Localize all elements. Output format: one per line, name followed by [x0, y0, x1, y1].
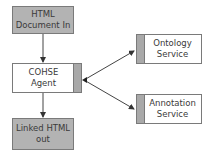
node-cohse-agent: COHSE Agent	[12, 63, 82, 93]
node-annotation-service: Annotation Service	[136, 94, 202, 124]
node-label-line2: Service	[149, 109, 196, 120]
port-strip	[73, 64, 81, 92]
node-label-line2: out	[16, 134, 70, 145]
node-label-line1: Ontology	[153, 38, 192, 49]
node-label-line2: Service	[153, 49, 192, 60]
node-label-line1: Annotation	[149, 98, 196, 109]
node-label-line1: Linked HTML	[16, 123, 70, 134]
node-html-document-in: HTML Document In	[12, 6, 74, 34]
node-linked-html-out: Linked HTML out	[12, 118, 74, 150]
agent-connector-arrowhead-icon	[82, 77, 87, 83]
port-strip	[137, 95, 145, 123]
port-strip	[137, 35, 145, 63]
node-label-line2: Agent	[29, 78, 59, 89]
node-label-line2: Document In	[16, 20, 71, 31]
diagram-canvas: HTML Document In COHSE Agent Linked HTML…	[0, 0, 216, 159]
node-label-line1: HTML	[16, 9, 71, 20]
edge-agent-to-ontology	[84, 51, 134, 80]
node-ontology-service: Ontology Service	[136, 34, 202, 64]
node-label-line1: COHSE	[29, 67, 59, 78]
edge-agent-to-annotation	[84, 80, 134, 109]
